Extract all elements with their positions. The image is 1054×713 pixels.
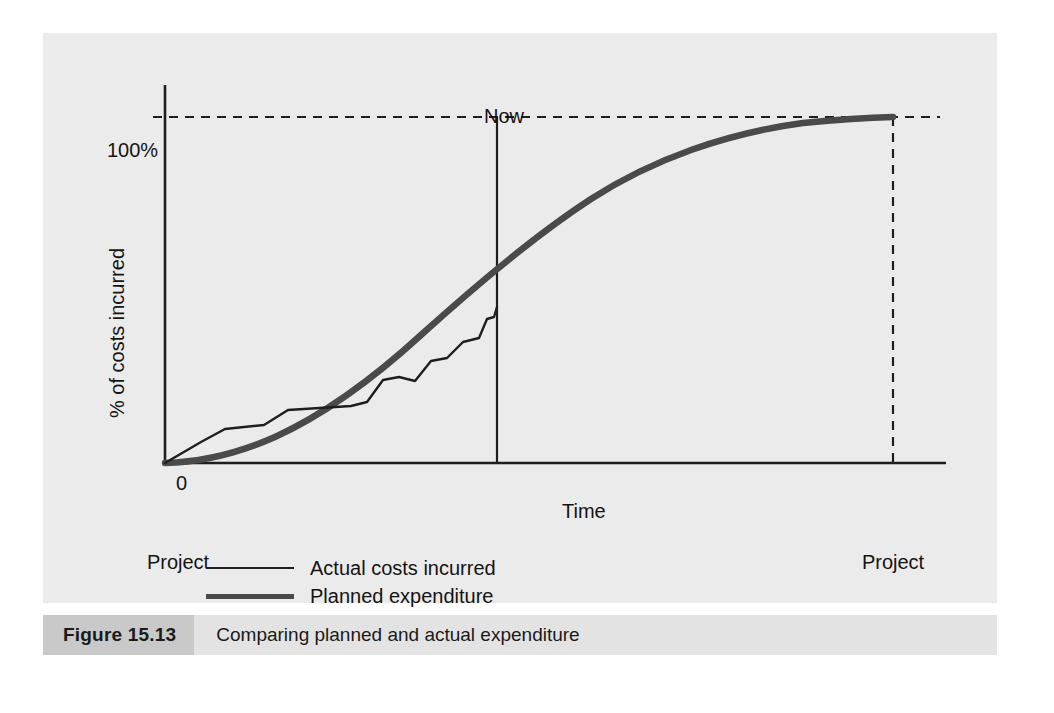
actual-costs-line	[165, 307, 497, 463]
planned-expenditure-curve	[165, 117, 893, 463]
y-axis-tick-zero: 0	[176, 471, 187, 495]
figure-root: 100% 0 % of costs incurred Now Time Proj…	[0, 0, 1054, 713]
y-axis-tick-100: 100%	[107, 138, 158, 162]
project-finishes-line-1: Project	[833, 549, 953, 575]
legend-item-actual: Actual costs incurred	[206, 554, 496, 582]
figure-number: Figure 15.13	[43, 615, 194, 655]
legend-swatch-thick-line-icon	[206, 590, 294, 602]
chart-plot-area: 100% 0 % of costs incurred Now Time Proj…	[43, 33, 997, 603]
x-axis-title: Time	[562, 499, 606, 523]
figure-panel: 100% 0 % of costs incurred Now Time Proj…	[43, 33, 997, 603]
figure-caption-bar: Figure 15.13 Comparing planned and actua…	[43, 615, 997, 655]
project-finishes-label: Project finishes	[833, 497, 953, 705]
legend-swatch-thin-line-icon	[206, 562, 294, 574]
legend-label-actual: Actual costs incurred	[310, 557, 496, 580]
figure-caption-text: Comparing planned and actual expenditure	[194, 615, 579, 655]
y-axis-title: % of costs incurred	[105, 223, 129, 443]
legend-label-planned: Planned expenditure	[310, 585, 493, 608]
legend-item-planned: Planned expenditure	[206, 582, 496, 610]
now-label: Now	[484, 104, 524, 128]
chart-legend: Actual costs incurred Planned expenditur…	[206, 554, 496, 610]
